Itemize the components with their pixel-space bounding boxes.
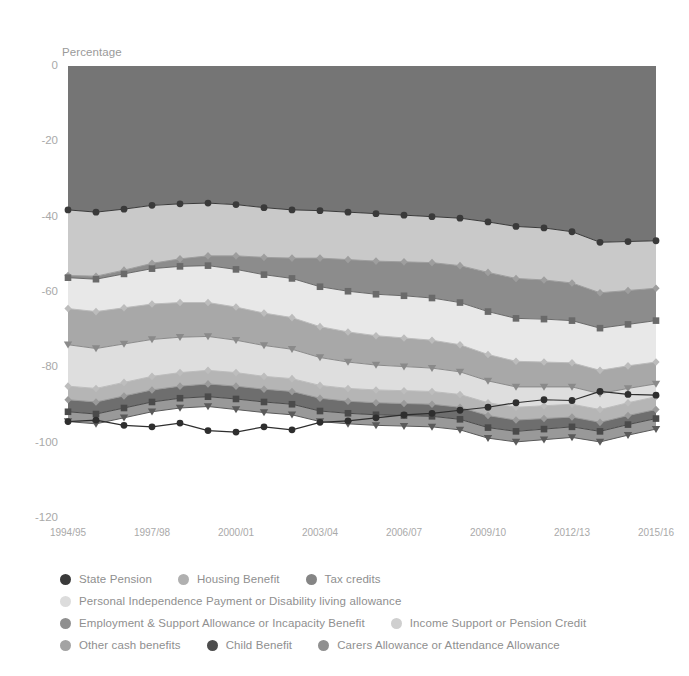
legend-swatch-icon	[60, 640, 71, 651]
legend-swatch-icon	[318, 640, 329, 651]
legend-item[interactable]: Housing Benefit	[178, 573, 280, 585]
data-point-marker	[65, 408, 72, 415]
data-point-marker	[177, 263, 184, 270]
data-point-marker	[205, 262, 212, 269]
data-point-marker	[233, 396, 240, 403]
data-point-marker	[177, 200, 184, 207]
data-point-marker	[261, 399, 268, 406]
legend-label: Tax credits	[325, 573, 381, 585]
data-point-marker	[512, 439, 520, 446]
data-point-marker	[597, 239, 604, 246]
data-point-marker	[625, 391, 632, 398]
data-point-marker	[596, 439, 604, 446]
legend-label: Employment & Support Allowance or Incapa…	[79, 617, 365, 629]
data-point-marker	[597, 428, 604, 435]
data-point-marker	[569, 228, 576, 235]
legend-swatch-icon	[391, 618, 402, 629]
data-point-marker	[401, 212, 408, 219]
data-point-marker	[569, 397, 576, 404]
chart-legend: State PensionHousing BenefitTax creditsP…	[60, 568, 680, 656]
legend-row-2: Employment & Support Allowance or Incapa…	[60, 612, 680, 634]
legend-label: Carers Allowance or Attendance Allowance	[337, 639, 560, 651]
data-point-marker	[177, 420, 184, 427]
data-point-marker	[653, 392, 660, 399]
legend-label: Child Benefit	[226, 639, 293, 651]
data-point-marker	[541, 225, 548, 232]
stacked-area-chart: Percentage 0-20-40-60-80-100-120 1994/95…	[0, 0, 689, 676]
legend-swatch-icon	[178, 574, 189, 585]
legend-item[interactable]: Child Benefit	[207, 639, 293, 651]
legend-label: Income Support or Pension Credit	[410, 617, 586, 629]
data-point-marker	[93, 417, 100, 424]
data-point-marker	[457, 299, 464, 306]
legend-row-1: Personal Independence Payment or Disabil…	[60, 590, 680, 612]
legend-swatch-icon	[207, 640, 218, 651]
legend-item[interactable]: Personal Independence Payment or Disabil…	[60, 595, 401, 607]
data-point-marker	[205, 427, 212, 434]
data-point-marker	[373, 414, 380, 421]
legend-item[interactable]: State Pension	[60, 573, 152, 585]
data-point-marker	[457, 407, 464, 414]
data-point-marker	[373, 291, 380, 298]
legend-label: Housing Benefit	[197, 573, 280, 585]
legend-label: State Pension	[79, 573, 152, 585]
data-point-marker	[177, 395, 184, 402]
data-point-marker	[289, 275, 296, 282]
legend-label: Other cash benefits	[79, 639, 181, 651]
legend-swatch-icon	[60, 596, 71, 607]
data-point-marker	[121, 206, 128, 213]
data-point-marker	[513, 428, 520, 435]
legend-item[interactable]: Carers Allowance or Attendance Allowance	[318, 639, 560, 651]
legend-item[interactable]: Other cash benefits	[60, 639, 181, 651]
data-point-marker	[121, 271, 128, 278]
data-point-marker	[121, 405, 128, 412]
data-point-marker	[625, 321, 632, 328]
data-point-marker	[625, 421, 632, 428]
data-point-marker	[401, 411, 408, 418]
data-point-marker	[205, 200, 212, 207]
data-point-marker	[261, 204, 268, 211]
data-point-marker	[373, 210, 380, 217]
data-point-marker	[93, 411, 100, 418]
legend-item[interactable]: Tax credits	[306, 573, 381, 585]
data-point-marker	[541, 396, 548, 403]
data-point-marker	[653, 237, 660, 244]
data-point-marker	[149, 423, 156, 430]
data-point-marker	[345, 417, 352, 424]
data-point-marker	[65, 274, 72, 281]
data-point-marker	[569, 424, 576, 431]
data-point-marker	[289, 426, 296, 433]
legend-row-0: State PensionHousing BenefitTax credits	[60, 568, 680, 590]
data-point-marker	[569, 317, 576, 324]
data-point-marker	[93, 276, 100, 283]
data-point-marker	[429, 295, 436, 302]
data-point-marker	[541, 426, 548, 433]
data-point-marker	[65, 418, 72, 425]
legend-item[interactable]: Employment & Support Allowance or Incapa…	[60, 617, 365, 629]
data-point-marker	[485, 308, 492, 315]
plot-area	[0, 0, 689, 560]
legend-swatch-icon	[60, 574, 71, 585]
legend-item[interactable]: Income Support or Pension Credit	[391, 617, 586, 629]
data-point-marker	[429, 410, 436, 417]
data-point-marker	[149, 265, 156, 272]
data-point-marker	[317, 408, 324, 415]
data-point-marker	[653, 415, 660, 422]
data-point-marker	[233, 429, 240, 436]
data-point-marker	[345, 209, 352, 216]
data-point-marker	[345, 410, 352, 417]
data-point-marker	[485, 424, 492, 431]
data-point-marker	[289, 401, 296, 408]
data-point-marker	[345, 288, 352, 295]
data-point-marker	[541, 316, 548, 323]
data-point-marker	[261, 271, 268, 278]
data-point-marker	[597, 325, 604, 332]
data-point-marker	[289, 206, 296, 213]
data-point-marker	[317, 207, 324, 214]
data-point-marker	[93, 209, 100, 216]
data-point-marker	[513, 315, 520, 322]
data-point-marker	[513, 223, 520, 230]
data-point-marker	[485, 219, 492, 226]
data-point-marker	[233, 266, 240, 273]
data-point-marker	[625, 238, 632, 245]
